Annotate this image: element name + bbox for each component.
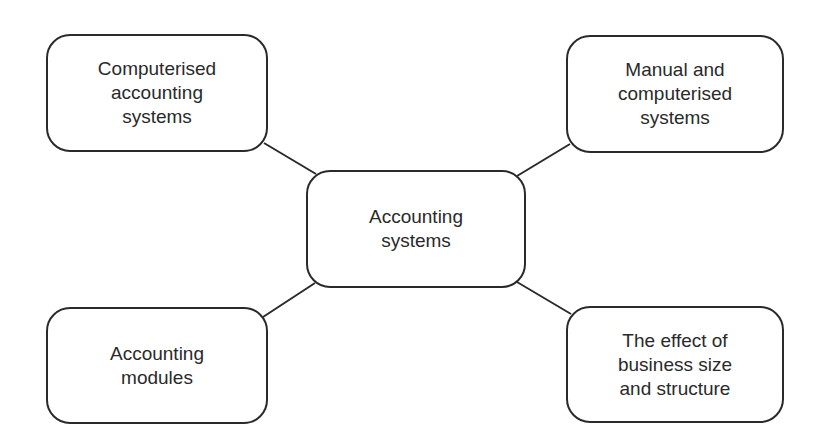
node-business-size-and-structure: The effect of business size and structur… [566, 306, 784, 423]
node-label: Accounting systems [369, 205, 463, 253]
node-manual-and-computerised-systems: Manual and computerised systems [566, 35, 784, 153]
node-accounting-systems-center: Accounting systems [306, 170, 526, 288]
connector-top-left [264, 143, 316, 174]
connector-bottom-left [263, 283, 315, 317]
connector-bottom-right [517, 282, 571, 314]
node-computerised-accounting-systems: Computerised accounting systems [46, 34, 268, 152]
node-label: Computerised accounting systems [98, 57, 216, 129]
node-label: Manual and computerised systems [618, 58, 732, 130]
node-label: The effect of business size and structur… [618, 329, 732, 401]
node-label: Accounting modules [110, 342, 204, 390]
connector-top-right [517, 144, 570, 176]
node-accounting-modules: Accounting modules [46, 307, 268, 424]
